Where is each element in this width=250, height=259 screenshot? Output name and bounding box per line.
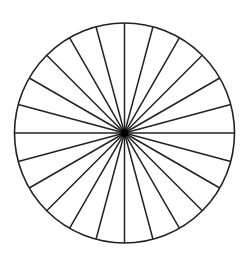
- spoke-line: [96, 133, 124, 239]
- spoke-line: [125, 105, 231, 133]
- spoke-line: [96, 27, 124, 133]
- spoke-line: [125, 133, 153, 239]
- spoke-line: [18, 133, 124, 161]
- spoke-line: [125, 27, 153, 133]
- spoke-line: [125, 133, 231, 161]
- divided-circle-diagram: [0, 0, 250, 259]
- spoke-line: [18, 105, 124, 133]
- center-hub: [121, 129, 129, 137]
